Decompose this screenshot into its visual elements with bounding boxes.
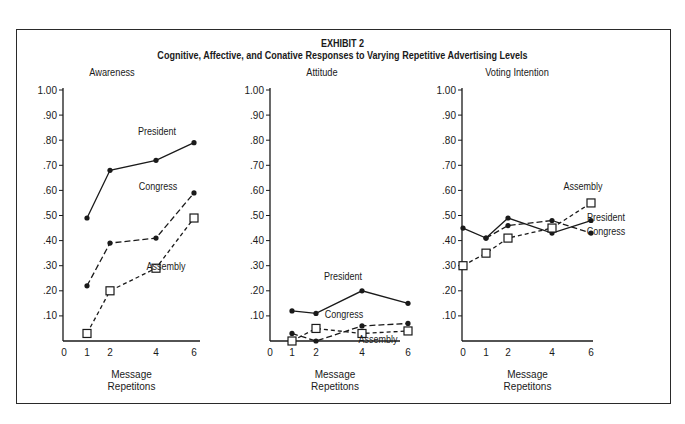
- dot-marker-icon: [191, 190, 196, 195]
- x-tick-label: 6: [405, 347, 411, 358]
- x-axis-label-line1: Message: [111, 369, 152, 380]
- series-line-assembly: [87, 218, 194, 333]
- y-tick-label: .40: [250, 235, 264, 246]
- square-marker-icon: [404, 327, 412, 335]
- x-tick-label: 2: [313, 347, 319, 358]
- y-tick-label: .10: [43, 310, 57, 321]
- x-tick-label: 4: [359, 347, 365, 358]
- panel-title: Awareness: [89, 66, 135, 78]
- x-tick-label: 1: [84, 347, 90, 358]
- square-marker-icon: [504, 234, 512, 242]
- square-marker-icon: [106, 287, 114, 295]
- dot-marker-icon: [405, 321, 410, 326]
- y-tick-label: .50: [250, 210, 264, 221]
- x-tick-label: 2: [107, 347, 113, 358]
- chart-attitude: Attitude.10.20.30.40.50.60.70.80.901.000…: [245, 66, 412, 392]
- x-axis-label-line2: Repetitons: [504, 381, 552, 392]
- series-label-president: President: [587, 212, 625, 224]
- square-marker-icon: [459, 262, 467, 270]
- series-line-president: [463, 218, 591, 238]
- y-tick-label: .40: [43, 235, 57, 246]
- square-marker-icon: [312, 324, 320, 332]
- y-tick-label: .60: [43, 185, 57, 196]
- series-label-assembly: Assembly: [359, 334, 398, 346]
- square-marker-icon: [83, 329, 91, 337]
- panel-title: Voting Intention: [485, 66, 549, 78]
- series-label-congress: Congress: [587, 226, 626, 238]
- y-tick-label: .50: [442, 210, 456, 221]
- dot-marker-icon: [505, 215, 510, 220]
- y-tick-label: .70: [43, 160, 57, 171]
- dot-marker-icon: [153, 158, 158, 163]
- y-tick-label: 1.00: [38, 85, 58, 96]
- series-label-congress: Congress: [139, 181, 178, 193]
- square-marker-icon: [190, 214, 198, 222]
- dot-marker-icon: [505, 223, 510, 228]
- x-axis-label-line1: Message: [315, 369, 356, 380]
- dot-marker-icon: [359, 323, 364, 328]
- y-tick-label: .50: [43, 210, 57, 221]
- y-tick-label: .30: [250, 260, 264, 271]
- x-tick-label: 6: [588, 347, 594, 358]
- y-tick-label: .30: [442, 260, 456, 271]
- dot-marker-icon: [313, 311, 318, 316]
- chart-voting-intention: Voting Intention.10.20.30.40.50.60.70.80…: [437, 66, 626, 392]
- dot-marker-icon: [483, 235, 488, 240]
- y-tick-label: 1.00: [437, 85, 457, 96]
- y-tick-label: .90: [43, 110, 57, 121]
- dot-marker-icon: [359, 288, 364, 293]
- y-tick-label: .20: [43, 285, 57, 296]
- series-label-assembly: Assembly: [564, 181, 603, 193]
- x-tick-label: 6: [191, 347, 197, 358]
- y-tick-label: .70: [442, 160, 456, 171]
- y-tick-label: .60: [250, 185, 264, 196]
- x-tick-label: 4: [153, 347, 159, 358]
- y-tick-label: .90: [250, 110, 264, 121]
- x-tick-label: 4: [549, 347, 555, 358]
- y-tick-label: .60: [442, 185, 456, 196]
- y-tick-label: 1.00: [245, 85, 265, 96]
- x-tick-label: 0: [460, 347, 466, 358]
- square-marker-icon: [587, 199, 595, 207]
- dot-marker-icon: [191, 140, 196, 145]
- dot-marker-icon: [84, 283, 89, 288]
- x-tick-label: 0: [267, 347, 273, 358]
- charts-canvas: Awareness.10.20.30.40.50.60.70.80.901.00…: [0, 0, 685, 424]
- dot-marker-icon: [289, 331, 294, 336]
- y-tick-label: .20: [250, 285, 264, 296]
- dot-marker-icon: [313, 338, 318, 343]
- y-tick-label: .70: [250, 160, 264, 171]
- series-label-president: President: [138, 126, 176, 138]
- square-marker-icon: [548, 224, 556, 232]
- dot-marker-icon: [405, 301, 410, 306]
- x-axis-label-line2: Repetitons: [108, 381, 156, 392]
- y-tick-label: .30: [43, 260, 57, 271]
- square-marker-icon: [482, 249, 490, 257]
- dot-marker-icon: [107, 168, 112, 173]
- x-tick-label: 2: [505, 347, 511, 358]
- x-tick-label: 1: [289, 347, 295, 358]
- chart-awareness: Awareness.10.20.30.40.50.60.70.80.901.00…: [38, 66, 200, 392]
- y-tick-label: .20: [442, 285, 456, 296]
- series-label-assembly: Assembly: [147, 261, 186, 273]
- y-tick-label: .80: [43, 135, 57, 146]
- square-marker-icon: [288, 337, 296, 345]
- dot-marker-icon: [289, 308, 294, 313]
- y-tick-label: .10: [250, 310, 264, 321]
- y-tick-label: .80: [250, 135, 264, 146]
- dot-marker-icon: [153, 235, 158, 240]
- y-tick-label: .10: [442, 310, 456, 321]
- series-label-congress: Congress: [325, 309, 364, 321]
- panel-title: Attitude: [306, 66, 338, 78]
- dot-marker-icon: [84, 215, 89, 220]
- x-axis-label-line2: Repetitons: [311, 381, 359, 392]
- x-tick-label: 1: [483, 347, 489, 358]
- y-tick-label: .80: [442, 135, 456, 146]
- dot-marker-icon: [549, 218, 554, 223]
- x-tick-label: 0: [61, 347, 67, 358]
- dot-marker-icon: [107, 241, 112, 246]
- y-tick-label: .90: [442, 110, 456, 121]
- x-axis-label-line1: Message: [507, 369, 548, 380]
- series-label-president: President: [324, 271, 362, 283]
- y-tick-label: .40: [442, 235, 456, 246]
